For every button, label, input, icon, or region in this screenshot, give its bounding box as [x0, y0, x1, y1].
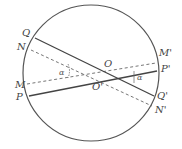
- label-q-prime: Q': [157, 90, 168, 101]
- label-o-prime: O': [92, 81, 103, 92]
- label-p: P: [15, 91, 23, 102]
- geometry-diagram: Q N M P M' P' Q' N' O O' α α: [0, 0, 182, 149]
- label-n: N: [16, 41, 27, 52]
- label-n-prime: N': [154, 104, 167, 115]
- angle-arc-left: [68, 64, 70, 78]
- label-m-prime: M': [158, 47, 172, 58]
- label-p-prime: P': [160, 63, 170, 74]
- label-m: M: [14, 79, 26, 90]
- label-o: O: [104, 58, 112, 69]
- label-q: Q: [22, 27, 30, 38]
- label-alpha-left: α: [59, 68, 65, 77]
- label-alpha-right: α: [137, 73, 143, 82]
